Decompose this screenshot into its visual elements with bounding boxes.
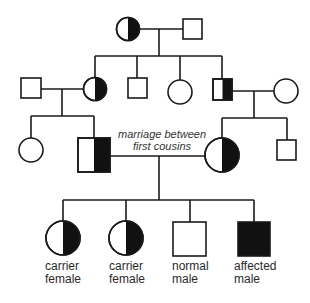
g1-carrier-female bbox=[117, 18, 140, 41]
g4-carrier-female-1 bbox=[46, 221, 80, 255]
consanguinity-annotation: marriage between first cousins bbox=[100, 128, 224, 152]
g4-affected-male bbox=[238, 222, 270, 256]
g3-normal-female bbox=[19, 138, 43, 162]
annotation-line-2: first cousins bbox=[100, 140, 224, 152]
annotation-line-1: marriage between bbox=[100, 128, 224, 140]
g2-carrier-male bbox=[213, 79, 232, 100]
g4-carrier-female-2 bbox=[109, 221, 143, 255]
label-child-2: carrier female bbox=[109, 260, 145, 286]
label-child-1: carrier female bbox=[45, 260, 81, 286]
label-child-3-line-2: male bbox=[172, 273, 209, 286]
label-child-3: normal male bbox=[172, 260, 209, 286]
g2-normal-male bbox=[128, 78, 147, 98]
label-child-1-line-2: female bbox=[45, 273, 81, 286]
label-child-4-line-2: male bbox=[234, 273, 276, 286]
label-child-2-line-2: female bbox=[109, 273, 145, 286]
g2-spouse-normal-male bbox=[21, 78, 41, 98]
g2-spouse-normal-female bbox=[274, 79, 298, 103]
g2-normal-female bbox=[168, 80, 192, 104]
label-child-4: affected male bbox=[234, 260, 276, 286]
g4-normal-male bbox=[173, 222, 206, 256]
g1-normal-male bbox=[183, 19, 202, 39]
g2-carrier-female bbox=[84, 78, 107, 101]
g3-normal-male bbox=[277, 140, 296, 160]
